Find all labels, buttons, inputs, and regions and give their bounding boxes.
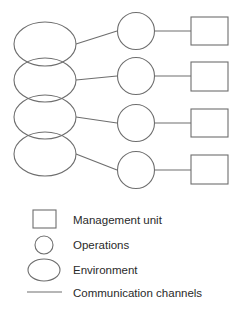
operations-circle-3: [118, 105, 155, 142]
operations-circle-2: [118, 58, 155, 95]
environment-ellipse-1: [14, 22, 76, 66]
channel-env-ops-4: [76, 154, 117, 170]
operations-circle-4: [118, 152, 155, 189]
management-group: [191, 17, 228, 184]
management-unit-square-1: [191, 17, 228, 45]
legend-label-management-unit: Management unit: [73, 214, 163, 226]
organization-diagram: Management unit Operations Environment C…: [0, 0, 245, 313]
communication-channels: [76, 31, 191, 170]
channel-env-ops-1: [76, 31, 117, 44]
legend-label-communication-channels: Communication channels: [73, 287, 202, 299]
legend-circle-icon: [35, 236, 53, 254]
legend-label-operations: Operations: [73, 239, 130, 251]
channel-env-ops-2: [76, 76, 117, 80]
legend: Management unit Operations Environment C…: [27, 210, 202, 299]
operations-group: [118, 13, 155, 189]
management-unit-square-4: [191, 155, 228, 184]
environment-group: [14, 22, 76, 176]
legend-square-icon: [33, 210, 56, 228]
legend-ellipse-icon: [28, 259, 60, 281]
legend-label-environment: Environment: [73, 264, 138, 276]
management-unit-square-2: [191, 62, 228, 91]
management-unit-square-3: [191, 109, 228, 137]
channel-env-ops-3: [76, 117, 117, 123]
operations-circle-1: [118, 13, 155, 50]
